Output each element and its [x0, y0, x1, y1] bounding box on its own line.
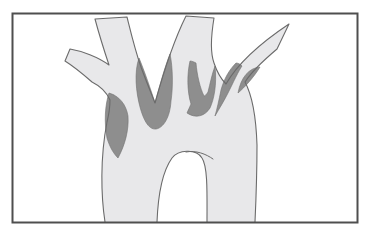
figure-panel [0, 0, 369, 237]
aortic-arch-diagram [0, 0, 369, 237]
